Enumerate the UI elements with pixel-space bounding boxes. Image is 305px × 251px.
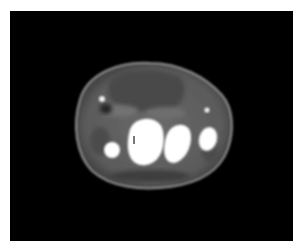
vessel-right (204, 107, 209, 112)
vessel-left (99, 96, 105, 102)
bone-small-left (104, 142, 120, 158)
ct-slice (10, 11, 293, 241)
image-frame (10, 11, 293, 241)
